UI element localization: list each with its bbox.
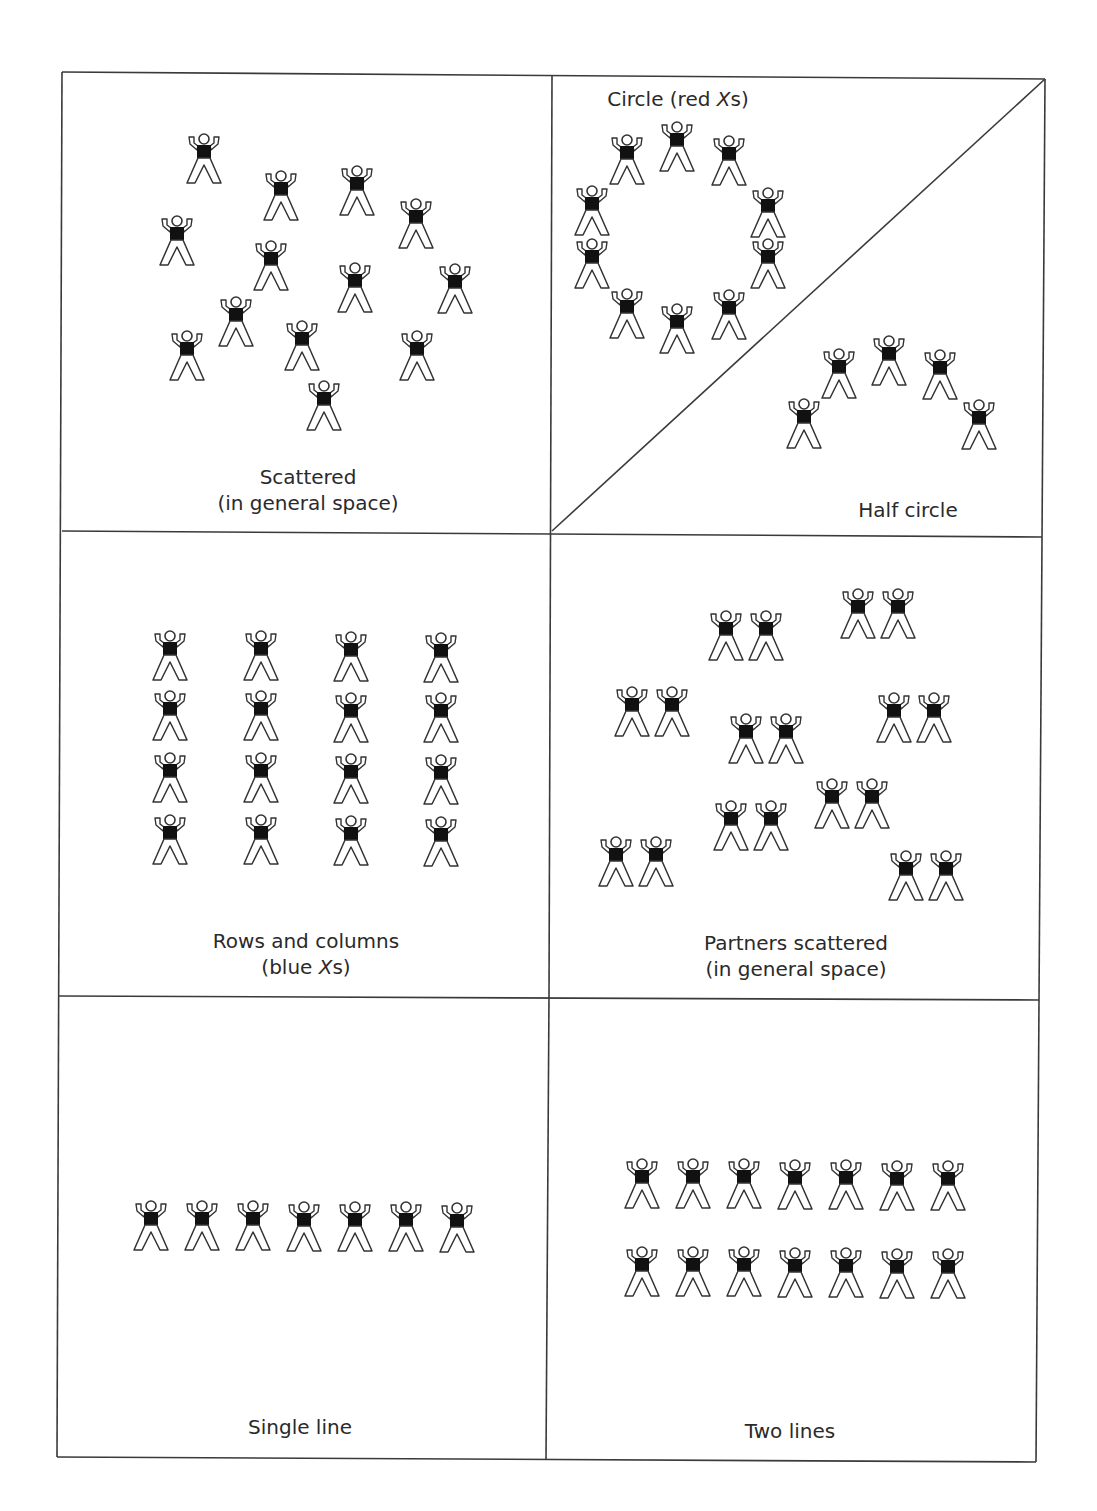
person-icon — [872, 336, 906, 385]
border-top — [62, 72, 1045, 79]
label-circle-text: Circle (red — [607, 87, 716, 111]
person-icon — [236, 1201, 270, 1250]
label-two-lines: Two lines — [745, 1418, 835, 1444]
label-rows-line2: (blue Xs) — [213, 954, 399, 980]
person-icon — [153, 753, 187, 802]
label-single-line: Single line — [248, 1414, 352, 1440]
person-icon — [855, 779, 889, 828]
person-icon — [712, 136, 746, 185]
person-icon — [244, 691, 278, 740]
person-icon — [287, 1202, 321, 1251]
person-icon — [749, 611, 783, 660]
person-icon — [615, 687, 649, 736]
panel-partners-scattered — [599, 589, 963, 900]
person-icon — [334, 816, 368, 865]
label-rows-italic: X — [319, 955, 333, 979]
person-icon — [334, 754, 368, 803]
person-icon — [575, 239, 609, 288]
person-icon — [170, 331, 204, 380]
person-icon — [729, 714, 763, 763]
person-icon — [881, 589, 915, 638]
divider-vertical — [546, 996, 549, 1460]
label-rows-suffix: s) — [332, 955, 350, 979]
person-icon — [769, 714, 803, 763]
person-icon — [829, 1248, 863, 1297]
person-icon — [400, 331, 434, 380]
label-rows-line1: Rows and columns — [213, 928, 399, 954]
person-icon — [676, 1159, 710, 1208]
border-right — [1036, 79, 1045, 1462]
person-icon — [307, 381, 341, 430]
person-icon — [931, 1249, 965, 1298]
person-icon — [285, 321, 319, 370]
person-icon — [134, 1201, 168, 1250]
person-icon — [399, 199, 433, 248]
person-icon — [929, 851, 963, 900]
person-icon — [880, 1161, 914, 1210]
person-icon — [751, 239, 785, 288]
label-rows-prefix: (blue — [261, 955, 318, 979]
divider-row-1 — [62, 531, 1042, 537]
person-icon — [610, 135, 644, 184]
label-half-circle: Half circle — [858, 497, 957, 523]
person-icon — [340, 166, 374, 215]
person-icon — [625, 1159, 659, 1208]
person-icon — [440, 1203, 474, 1252]
person-icon — [660, 122, 694, 171]
label-single-line-text: Single line — [248, 1414, 352, 1440]
person-icon — [599, 837, 633, 886]
person-icon — [655, 687, 689, 736]
panel-half-circle — [787, 336, 996, 449]
person-icon — [822, 349, 856, 398]
person-icon — [917, 693, 951, 742]
person-icon — [625, 1247, 659, 1296]
panel-single-line — [134, 1201, 474, 1252]
person-icon — [244, 815, 278, 864]
person-icon — [829, 1160, 863, 1209]
person-icon — [931, 1161, 965, 1210]
person-icon — [962, 400, 996, 449]
label-partners-line1: Partners scattered — [704, 930, 888, 956]
person-icon — [754, 801, 788, 850]
person-icon — [334, 693, 368, 742]
person-icon — [815, 779, 849, 828]
person-icon — [424, 693, 458, 742]
person-icon — [334, 632, 368, 681]
formations-diagram — [0, 0, 1097, 1511]
person-icon — [153, 815, 187, 864]
panel-scattered — [160, 134, 472, 430]
label-circle-suffix: s) — [730, 87, 748, 111]
person-icon — [338, 1202, 372, 1251]
person-icon — [219, 297, 253, 346]
divider-vertical — [549, 76, 552, 996]
person-icon — [923, 350, 957, 399]
person-icon — [787, 399, 821, 448]
person-icon — [424, 755, 458, 804]
label-scattered-line2: (in general space) — [217, 490, 398, 516]
person-icon — [264, 171, 298, 220]
person-icon — [639, 837, 673, 886]
label-scattered: Scattered (in general space) — [217, 464, 398, 516]
person-icon — [424, 633, 458, 682]
person-icon — [575, 186, 609, 235]
figures-layer — [134, 122, 996, 1298]
label-rows-and-columns: Rows and columns (blue Xs) — [213, 928, 399, 980]
person-icon — [153, 631, 187, 680]
person-icon — [712, 290, 746, 339]
person-icon — [254, 241, 288, 290]
person-icon — [880, 1249, 914, 1298]
panel-rows-and-columns — [153, 631, 458, 866]
person-icon — [714, 801, 748, 850]
person-icon — [160, 216, 194, 265]
person-icon — [841, 589, 875, 638]
person-icon — [244, 631, 278, 680]
person-icon — [424, 817, 458, 866]
person-icon — [438, 264, 472, 313]
person-icon — [185, 1201, 219, 1250]
person-icon — [877, 693, 911, 742]
panel-two-lines — [625, 1159, 965, 1298]
label-circle-italic: X — [717, 87, 731, 111]
person-icon — [153, 691, 187, 740]
person-icon — [338, 263, 372, 312]
person-icon — [389, 1202, 423, 1251]
